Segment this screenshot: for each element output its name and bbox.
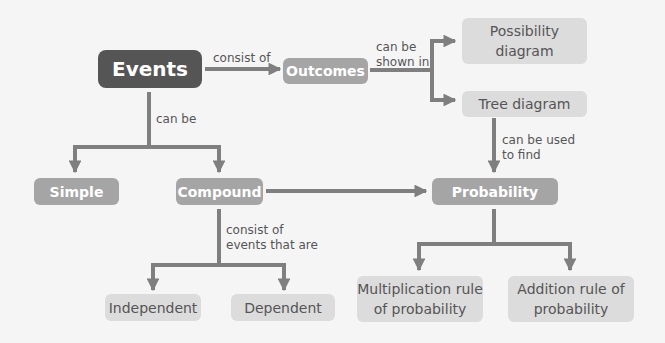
edge-label-consist-of: consist of [213,51,270,66]
node-multiplication-rule[interactable]: Multiplication rule of probability [357,276,483,322]
node-possibility-diagram-label: Possibility diagram [490,21,559,61]
node-addition-rule-label: Addition rule of probability [517,279,624,319]
node-possibility-diagram[interactable]: Possibility diagram [462,18,587,64]
node-events-label: Events [112,57,188,81]
node-probability-label: Probability [452,184,539,200]
edge-compound-independent [153,265,219,290]
node-tree-diagram-label: Tree diagram [479,94,571,114]
node-probability[interactable]: Probability [432,178,558,205]
edge-label-can-be-used-to-find: can be used to find [502,133,575,163]
edge-events-compound [149,147,219,172]
node-independent-label: Independent [109,298,198,318]
node-events[interactable]: Events [98,50,202,88]
edge-label-consist-of-events-that-are: consist of events that are [226,223,318,253]
node-simple-label: Simple [50,184,104,200]
node-outcomes-label: Outcomes [286,63,365,79]
node-independent[interactable]: Independent [105,294,201,321]
node-dependent-label: Dependent [244,298,322,318]
edge-label-can-be: can be [156,112,196,127]
edge-probability-addition [494,244,570,270]
node-addition-rule[interactable]: Addition rule of probability [508,276,634,322]
node-compound[interactable]: Compound [176,178,263,205]
node-compound-label: Compound [177,184,261,200]
edge-label-can-be-shown-in: can be shown in [376,40,429,70]
edge-compound-dependent [219,265,284,290]
node-tree-diagram[interactable]: Tree diagram [462,91,587,117]
node-outcomes[interactable]: Outcomes [283,58,368,84]
edge-probability-multiplication [419,244,494,270]
node-dependent[interactable]: Dependent [231,294,335,321]
node-multiplication-rule-label: Multiplication rule of probability [357,279,483,319]
edge-events-simple [75,147,149,172]
node-simple[interactable]: Simple [34,178,119,205]
